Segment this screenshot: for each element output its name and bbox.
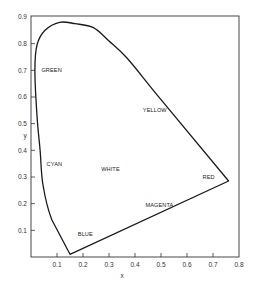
x-tick-label: 0.5: [156, 261, 165, 268]
x-tick-label: 0.2: [78, 261, 87, 268]
region-label-blue: BLUE: [78, 231, 93, 237]
y-tick-label: 0.7: [18, 67, 27, 74]
region-label-cyan: CYAN: [47, 161, 63, 167]
x-tick-label: 0.3: [104, 261, 113, 268]
axes-box: [31, 16, 239, 257]
region-label-white: WHITE: [101, 166, 120, 172]
y-tick-label: 0.9: [18, 13, 27, 20]
region-label-green: GREEN: [41, 67, 61, 73]
y-tick-label: 0.6: [18, 93, 27, 100]
y-tick-label: 0.8: [18, 40, 27, 47]
y-axis-label: y: [23, 132, 27, 140]
y-tick-label: 0.1: [18, 227, 27, 234]
y-tick-label: 0.4: [18, 147, 27, 154]
region-label-magenta: MAGENTA: [145, 202, 173, 208]
y-tick-label: 0.3: [18, 173, 27, 180]
region-label-red: RED: [203, 174, 215, 180]
cie-chromaticity-chart: 0.10.20.30.40.50.60.70.80.10.20.30.40.50…: [0, 0, 254, 289]
x-tick-label: 0.4: [130, 261, 139, 268]
x-tick-label: 0.8: [234, 261, 243, 268]
x-tick-label: 0.1: [52, 261, 61, 268]
plot-frame: [31, 16, 239, 257]
region-labels: GREENYELLOWCYANWHITEREDMAGENTABLUE: [41, 67, 214, 237]
y-tick-label: 0.5: [18, 120, 27, 127]
y-tick-label: 0.2: [18, 200, 27, 207]
spectral-locus-curve: [35, 22, 229, 254]
x-tick-label: 0.7: [208, 261, 217, 268]
region-label-yellow: YELLOW: [143, 107, 168, 113]
x-axis-label: x: [120, 272, 124, 279]
x-tick-label: 0.6: [182, 261, 191, 268]
axis-ticks: 0.10.20.30.40.50.60.70.80.10.20.30.40.50…: [18, 13, 244, 268]
